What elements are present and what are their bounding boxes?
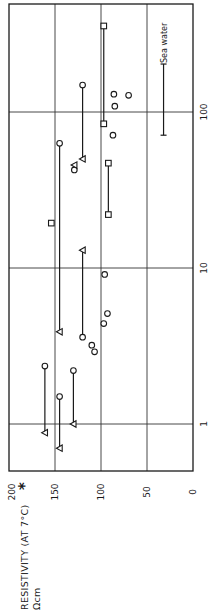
- circle-marker-icon: [89, 342, 95, 348]
- sea-water-range: [161, 64, 167, 135]
- circle-marker-icon: [112, 103, 118, 109]
- square-marker-icon: [101, 121, 107, 127]
- circle-marker-icon: [57, 141, 63, 147]
- circle-marker-icon: [80, 334, 86, 340]
- tick-label-resistivity-0: 0: [188, 489, 198, 495]
- gridlines: [9, 4, 193, 471]
- asterisk-mark: *: [16, 482, 34, 490]
- tick-label-resistivity-150: 150: [50, 483, 60, 500]
- circle-marker-icon: [42, 363, 48, 369]
- tick-label-log-100: 100: [199, 103, 209, 120]
- square-marker-icon: [106, 160, 112, 166]
- circle-marker-icon: [57, 394, 63, 400]
- axis-title-text: RESISTIVITY (AT 7°C): [19, 505, 30, 610]
- tick-label-log-10: 10: [199, 262, 209, 274]
- circle-marker-icon: [110, 132, 116, 138]
- tick-label-resistivity-100: 100: [96, 483, 106, 500]
- tick-label-log-1: 1: [199, 421, 209, 427]
- connector-lines: [45, 26, 108, 448]
- sea-water-label: Sea water: [160, 22, 169, 63]
- circle-marker-icon: [80, 82, 86, 88]
- circle-marker-icon: [126, 92, 132, 98]
- square-marker-icon: [101, 23, 107, 29]
- resistivity-chart: 050100150200110100 RESISTIVITY (AT 7°C) …: [0, 0, 223, 614]
- circle-marker-icon: [102, 272, 108, 278]
- tick-label-resistivity-50: 50: [142, 486, 152, 498]
- sea-water-text: Sea water: [160, 22, 169, 63]
- unit-label: Ωcm: [31, 587, 42, 610]
- circle-marker-icon: [105, 311, 111, 317]
- circle-marker-icon: [101, 321, 107, 327]
- square-marker-icon: [49, 220, 55, 226]
- circle-marker-icon: [92, 349, 98, 355]
- circle-marker-icon: [111, 91, 117, 97]
- y-axis-title: RESISTIVITY (AT 7°C) * Ωcm: [16, 482, 42, 610]
- square-marker-icon: [106, 212, 112, 218]
- circle-marker-icon: [71, 368, 77, 374]
